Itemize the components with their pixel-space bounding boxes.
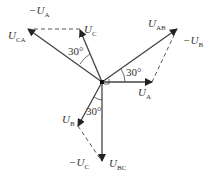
dashed-neg-u-c <box>78 126 101 160</box>
label-u-bc: UBC <box>109 158 126 172</box>
angle-label-1: 30° <box>126 67 141 78</box>
angle-arc-1 <box>121 69 125 82</box>
label-u-ab: UAB <box>148 18 166 32</box>
label-u-c: UC <box>84 24 97 38</box>
angle-arc-3 <box>94 97 102 100</box>
label-u-a: UA <box>138 87 151 101</box>
origin-marker <box>100 80 104 84</box>
label-neg-u-a: −UA <box>29 5 49 19</box>
label-u-ca: UCA <box>8 30 26 44</box>
phasor-diagram <box>0 0 210 176</box>
label-u-b: UB <box>62 114 75 128</box>
label-neg-u-c: −UC <box>69 157 89 171</box>
vector-u-b <box>78 82 102 126</box>
label-neg-u-b: −UB <box>183 35 203 49</box>
angle-label-2: 30° <box>68 46 83 57</box>
angle-label-3: 30° <box>86 106 101 117</box>
